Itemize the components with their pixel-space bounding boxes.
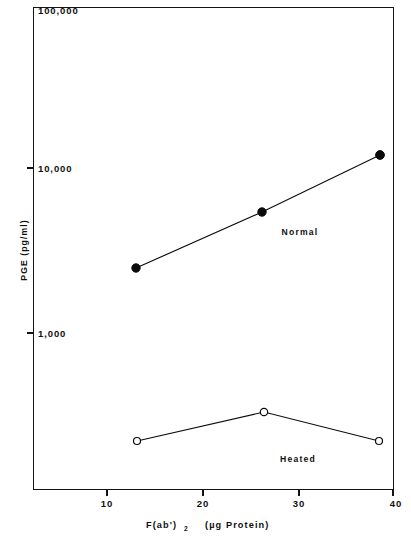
series-normal-point-3 — [376, 151, 385, 160]
series-heated-label: Heated — [280, 454, 316, 464]
series-heated: Heated — [134, 408, 383, 464]
x-axis-tick-labels: 10 20 30 40 — [101, 498, 402, 509]
y-axis-title: PGE (pg/ml) — [19, 219, 29, 280]
y-tick-label-100000: 100,000 — [38, 5, 79, 16]
x-tick-label-10: 10 — [101, 498, 113, 509]
x-tick-label-20: 20 — [197, 498, 209, 509]
series-normal-point-2 — [258, 208, 266, 216]
pge-line-chart: 100,000 10,000 1,000 PGE (pg/ml) 10 20 3… — [0, 0, 411, 537]
series-heated-line — [137, 412, 379, 441]
chart-frame — [33, 7, 394, 490]
series-normal-point-1 — [132, 264, 140, 272]
x-axis-title-subscript: 2 — [184, 525, 189, 532]
series-heated-point-2 — [260, 408, 267, 415]
x-tick-label-30: 30 — [293, 498, 305, 509]
series-heated-point-3 — [376, 438, 383, 445]
figure-container: 100,000 10,000 1,000 PGE (pg/ml) 10 20 3… — [0, 0, 411, 537]
x-axis-title: F(ab') 2 (µg Protein) — [146, 520, 269, 532]
series-normal: Normal — [132, 151, 385, 273]
y-tick-label-1000: 1,000 — [38, 328, 66, 339]
y-tick-label-10000: 10,000 — [38, 163, 72, 174]
x-axis-title-units: (µg Protein) — [205, 520, 269, 530]
y-axis-tick-labels: 100,000 10,000 1,000 — [38, 5, 79, 339]
x-axis-title-main: F(ab') — [146, 520, 177, 530]
series-normal-label: Normal — [282, 227, 319, 237]
x-tick-label-40: 40 — [390, 498, 402, 509]
series-heated-point-1 — [134, 438, 141, 445]
